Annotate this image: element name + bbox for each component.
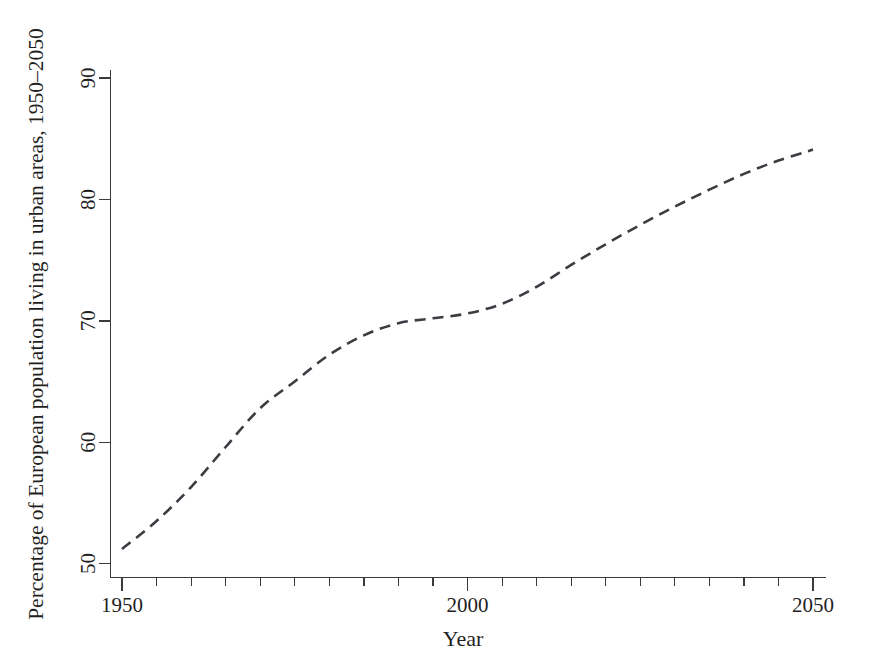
x-tick-label: 2050 [792,593,834,617]
chart-background [0,0,876,670]
x-tick-label: 1950 [101,593,143,617]
chart-figure: 50 60 70 80 90 Percentage of European po… [0,0,876,670]
y-tick-label: 60 [76,432,100,453]
x-tick-label: 2000 [447,593,489,617]
y-axis-title: Percentage of European population living… [24,28,48,620]
x-axis-title: Year [443,626,484,651]
y-tick-label: 80 [76,189,100,210]
y-tick-label: 70 [76,310,100,331]
line-chart: 50 60 70 80 90 Percentage of European po… [0,0,876,670]
y-tick-label: 50 [76,553,100,574]
y-tick-label: 90 [76,68,100,89]
